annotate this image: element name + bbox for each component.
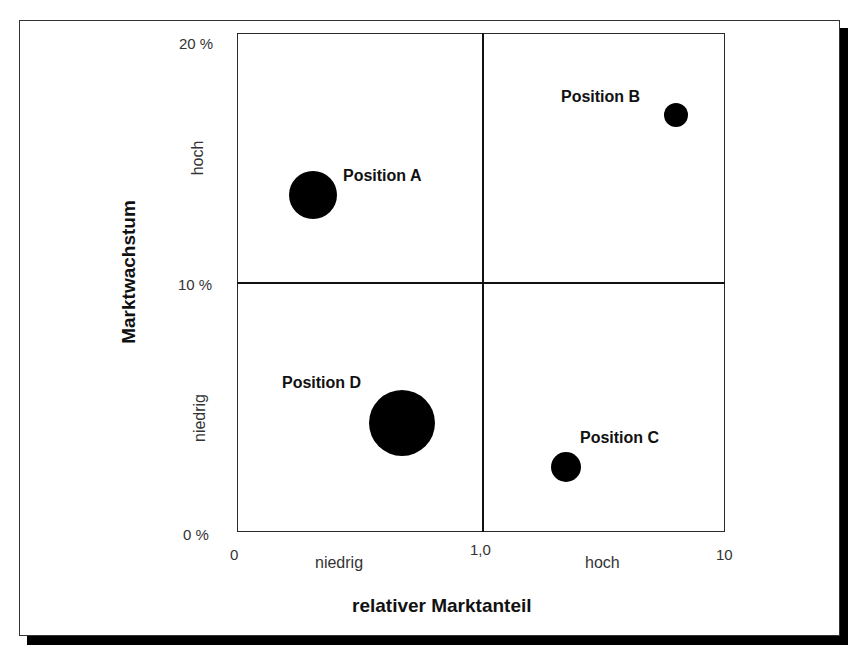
y-category-high: hoch — [190, 141, 206, 176]
y-category-low: niedrig — [192, 394, 208, 442]
label-position-d: Position D — [282, 375, 361, 391]
bubble-position-b — [664, 103, 688, 127]
bubble-position-d — [369, 390, 435, 456]
label-position-a: Position A — [343, 168, 422, 184]
horizontal-divider — [237, 282, 725, 284]
y-tick-mid: 10 % — [178, 277, 212, 292]
bubble-position-a — [289, 171, 337, 219]
x-tick-max: 10 — [716, 547, 733, 562]
x-tick-min: 0 — [230, 547, 238, 562]
x-tick-mid: 1,0 — [470, 542, 491, 557]
label-position-c: Position C — [580, 430, 659, 446]
bubble-position-c — [551, 452, 581, 482]
x-axis-title: relativer Marktanteil — [352, 596, 532, 615]
y-axis-title: Marktwachstum — [119, 200, 138, 344]
y-tick-max: 20 % — [179, 36, 213, 51]
x-category-low: niedrig — [315, 555, 363, 571]
y-tick-min: 0 % — [183, 527, 209, 542]
label-position-b: Position B — [561, 89, 640, 105]
x-category-high: hoch — [585, 555, 620, 571]
